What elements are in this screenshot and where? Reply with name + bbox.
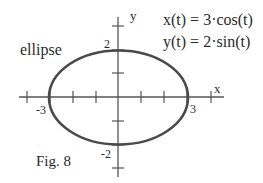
equation-y: y(t) = 2·sin(t) <box>163 34 250 50</box>
chart-title: ellipse <box>20 42 62 58</box>
x-axis-label: x <box>214 82 221 95</box>
figure-caption: Fig. 8 <box>36 154 71 169</box>
tick-label-x-neg3: -3 <box>36 104 46 116</box>
tick-label-x-3: 3 <box>190 103 196 115</box>
tick-label-y-neg2: -2 <box>101 148 111 160</box>
equation-x: x(t) = 3·cos(t) <box>163 12 253 28</box>
tick-label-y-2: 2 <box>104 38 110 50</box>
y-axis-label: y <box>130 9 137 22</box>
